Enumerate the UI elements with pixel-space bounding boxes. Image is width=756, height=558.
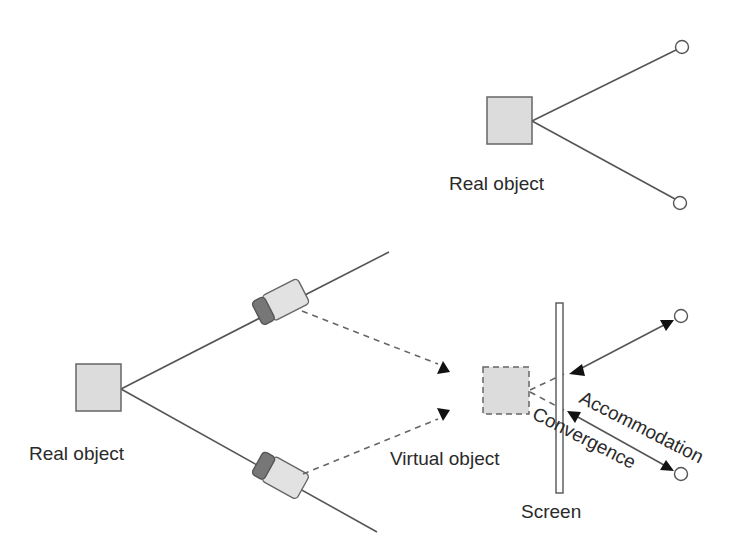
bottom-eye-lower-icon	[675, 468, 688, 481]
top-sight-line-lower	[532, 121, 675, 199]
top-scene: Real object	[449, 41, 689, 210]
bottom-scene: Real object Virtual object Screen	[29, 252, 707, 532]
accommodation-arrowhead-screen-icon	[569, 364, 585, 376]
camera-upper-icon	[251, 278, 310, 327]
accommodation-arrow-line	[578, 325, 664, 370]
virtual-object-label: Virtual object	[390, 448, 500, 469]
virtual-object	[483, 367, 529, 414]
convergence-arrowhead-eye-icon	[660, 460, 674, 471]
top-real-object	[487, 97, 532, 144]
projection-line-upper	[302, 311, 438, 364]
top-eye-lower-icon	[674, 197, 687, 210]
top-eye-upper-icon	[676, 41, 689, 54]
screen	[556, 303, 563, 493]
top-sight-line-upper	[532, 50, 676, 121]
screen-label: Screen	[521, 501, 581, 522]
projection-arrowhead-lower-icon	[437, 408, 450, 421]
camera-lower-icon	[251, 450, 310, 500]
bottom-real-object-label: Real object	[29, 443, 125, 464]
camera-sight-line-lower	[121, 389, 377, 532]
stereo-viewing-diagram: Real object Real object Virtual object	[0, 0, 756, 558]
bottom-eye-upper-icon	[675, 310, 688, 323]
bottom-real-object	[76, 364, 121, 411]
camera-sight-line-upper	[121, 252, 389, 389]
top-real-object-label: Real object	[449, 173, 545, 194]
projection-arrowhead-upper-icon	[437, 361, 450, 374]
